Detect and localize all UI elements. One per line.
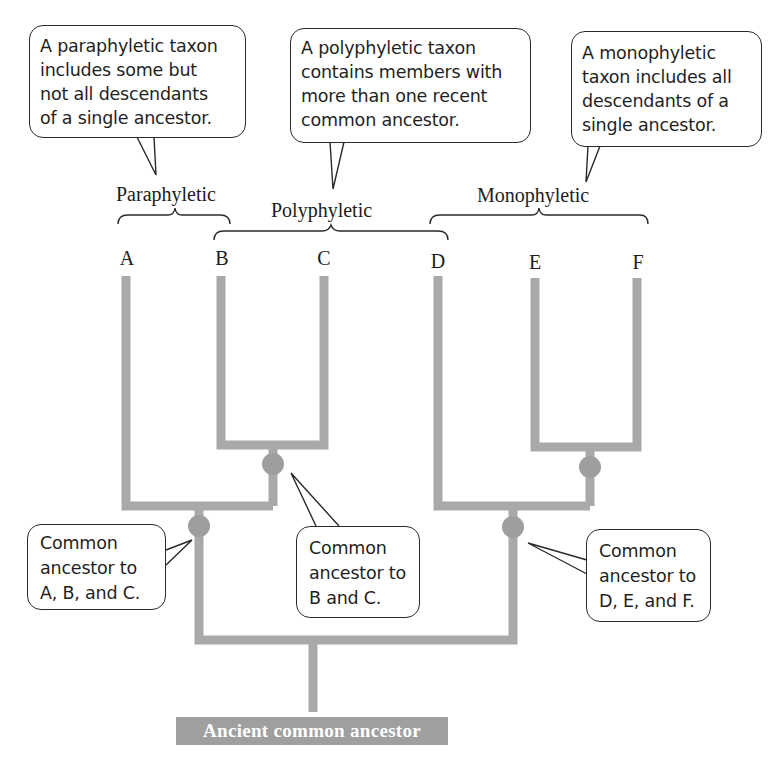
callout-polyphyletic-text: A polyphyletic taxon contains members wi… xyxy=(301,36,520,132)
tail-bc xyxy=(291,473,339,526)
callout-node-def-text: Common ancestor to D, E, and F. xyxy=(599,539,698,614)
taxon-a: A xyxy=(120,247,134,270)
branch-d xyxy=(438,276,590,506)
callout-node-abc: Common ancestor to A, B, and C. xyxy=(27,524,166,610)
callout-node-bc: Common ancestor to B and C. xyxy=(296,526,420,618)
callout-node-abc-text: Common ancestor to A, B, and C. xyxy=(40,531,153,606)
taxon-f: F xyxy=(632,251,643,274)
callout-polyphyletic: A polyphyletic taxon contains members wi… xyxy=(290,28,531,143)
group-label-paraphyletic: Paraphyletic xyxy=(116,183,216,206)
tail-monophyletic xyxy=(586,146,600,182)
node-abc xyxy=(188,515,210,537)
tail-abc xyxy=(166,540,192,565)
phylogeny-diagram: A paraphyletic taxon includes some but n… xyxy=(0,0,768,761)
node-bc xyxy=(262,453,284,475)
tail-def xyxy=(528,543,587,574)
tail-polyphyletic xyxy=(330,142,344,189)
callout-node-def: Common ancestor to D, E, and F. xyxy=(586,529,711,622)
brace-monophyletic xyxy=(430,208,648,224)
brace-polyphyletic xyxy=(214,225,448,240)
group-label-monophyletic: Monophyletic xyxy=(477,184,589,207)
group-braces xyxy=(118,208,648,240)
callout-monophyletic: A monophyletic taxon includes all descen… xyxy=(571,31,762,147)
group-label-polyphyletic: Polyphyletic xyxy=(271,199,372,222)
callout-node-bc-text: Common ancestor to B and C. xyxy=(309,536,407,611)
brace-paraphyletic xyxy=(118,208,230,224)
tree-branches xyxy=(126,276,637,712)
tail-paraphyletic xyxy=(137,137,156,175)
node-ef xyxy=(579,456,601,478)
branch-bc xyxy=(221,276,324,445)
taxon-d: D xyxy=(431,250,445,273)
callout-monophyletic-text: A monophyletic taxon includes all descen… xyxy=(582,41,751,137)
taxon-e: E xyxy=(529,251,541,274)
callout-paraphyletic-text: A paraphyletic taxon includes some but n… xyxy=(40,34,235,130)
taxon-b: B xyxy=(215,247,228,270)
callout-paraphyletic: A paraphyletic taxon includes some but n… xyxy=(29,25,246,138)
taxon-c: C xyxy=(317,247,330,270)
node-def xyxy=(502,516,524,538)
branch-ef xyxy=(535,278,637,447)
root-label: Ancient common ancestor xyxy=(176,717,448,745)
branch-a xyxy=(126,276,273,506)
